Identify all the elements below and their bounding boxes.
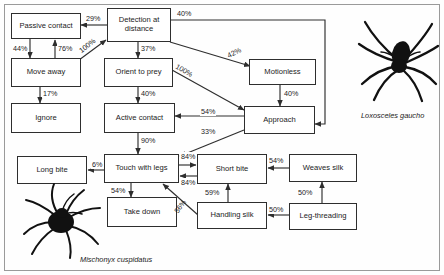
- node-label: Passive contact: [19, 22, 72, 31]
- node-label: Approach: [263, 116, 296, 125]
- node-touch-with-legs[interactable]: Touch with legs: [104, 154, 179, 183]
- node-label: Weaves silk: [303, 164, 343, 173]
- node-label: Orient to prey: [115, 68, 161, 77]
- spider-illustration-mischonyx: [22, 182, 108, 260]
- node-passive-contact[interactable]: Passive contact: [11, 13, 81, 39]
- node-label: Short bite: [216, 165, 249, 174]
- edge-label-50-handling: 50%: [268, 205, 284, 214]
- node-handling-silk[interactable]: Handling silk: [197, 202, 267, 229]
- node-label: Long bite: [36, 166, 67, 175]
- edge-label-84-top: 84%: [180, 152, 196, 161]
- node-label: Detection at distance: [110, 16, 168, 33]
- node-approach[interactable]: Approach: [244, 106, 315, 134]
- edge-label-40-top: 40%: [176, 9, 192, 18]
- edge-label-59: 59%: [204, 188, 220, 197]
- node-active-contact[interactable]: Active contact: [104, 103, 175, 133]
- edge-label-29: 29%: [85, 14, 101, 23]
- node-label: Ignore: [35, 114, 57, 123]
- node-move-away[interactable]: Move away: [11, 58, 81, 87]
- edge-label-37: 37%: [140, 44, 156, 53]
- node-label: Leg-threading: [300, 212, 347, 221]
- edge-label-90: 90%: [140, 136, 156, 145]
- node-long-bite[interactable]: Long bite: [17, 156, 87, 184]
- edge-label-84-bottom: 84%: [180, 178, 196, 187]
- diagram-canvas: Passive contact Detection at distance Mo…: [0, 0, 444, 275]
- node-short-bite[interactable]: Short bite: [197, 154, 267, 184]
- node-label: Touch with legs: [116, 164, 168, 173]
- edge-orient-approach: [172, 70, 244, 110]
- edge-label-33: 33%: [200, 127, 216, 136]
- node-motionless[interactable]: Motionless: [249, 59, 316, 85]
- node-detection-at-distance[interactable]: Detection at distance: [107, 8, 171, 42]
- edge-label-54-approach: 54%: [200, 107, 216, 116]
- caption-mischonyx-cuspidatus: Mischonyx cuspidatus: [80, 255, 152, 264]
- node-label: Active contact: [116, 114, 163, 123]
- node-leg-threading[interactable]: Leg-threading: [289, 203, 357, 230]
- edge-label-54-takedown: 54%: [110, 186, 126, 195]
- node-take-down[interactable]: Take down: [107, 197, 177, 227]
- spider-illustration-loxosceles: [356, 16, 442, 108]
- node-orient-to-prey[interactable]: Orient to prey: [104, 58, 173, 87]
- node-weaves-silk[interactable]: Weaves silk: [289, 154, 357, 182]
- edge-label-54-weaves: 54%: [268, 156, 284, 165]
- edge-label-76: 76%: [57, 44, 73, 53]
- node-ignore[interactable]: Ignore: [11, 103, 81, 133]
- edge-label-40-orient: 40%: [140, 89, 156, 98]
- edge-label-44: 44%: [12, 44, 28, 53]
- edge-label-17: 17%: [42, 89, 58, 98]
- edge-label-50-weaves: 50%: [297, 188, 313, 197]
- node-label: Take down: [124, 208, 160, 217]
- node-label: Handling silk: [210, 211, 253, 220]
- edge-label-6: 6%: [91, 160, 103, 169]
- edge-label-40-motionless: 40%: [283, 89, 299, 98]
- node-label: Motionless: [264, 68, 300, 77]
- node-label: Move away: [27, 68, 65, 77]
- caption-loxosceles-gaucho: Loxosceles gaucho: [361, 111, 424, 120]
